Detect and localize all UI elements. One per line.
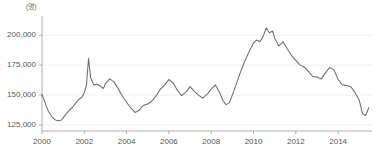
y-tick-label: 200,000 bbox=[7, 30, 36, 39]
line-chart-svg: 200,000175,000150,000125,000 20002002200… bbox=[0, 0, 380, 154]
chart-container: (명) 200,000175,000150,000125,000 2000200… bbox=[0, 0, 380, 154]
x-tick-label: 2012 bbox=[287, 137, 305, 146]
x-axis-tick-marks bbox=[42, 131, 338, 134]
x-tick-label: 2002 bbox=[75, 137, 93, 146]
x-tick-label: 2010 bbox=[245, 137, 263, 146]
y-axis-tick-labels: 200,000175,000150,000125,000 bbox=[7, 30, 36, 129]
x-tick-label: 2004 bbox=[118, 137, 136, 146]
x-axis-tick-labels: 20002002200420062008201020122014 bbox=[33, 137, 348, 146]
data-series-line bbox=[42, 28, 369, 121]
x-tick-label: 2008 bbox=[202, 137, 220, 146]
y-tick-label: 150,000 bbox=[7, 90, 36, 99]
y-tick-label: 125,000 bbox=[7, 120, 36, 129]
x-tick-label: 2006 bbox=[160, 137, 178, 146]
x-tick-label: 2014 bbox=[329, 137, 347, 146]
y-tick-label: 175,000 bbox=[7, 60, 36, 69]
y-axis-tick-marks bbox=[39, 35, 42, 125]
x-tick-label: 2000 bbox=[33, 137, 51, 146]
